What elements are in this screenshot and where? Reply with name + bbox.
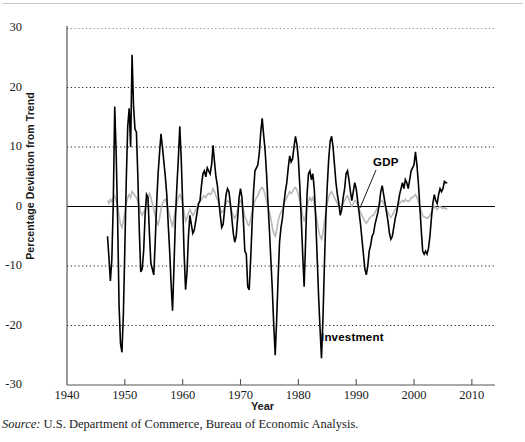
y-tick-0: 0 <box>0 199 22 214</box>
y-tick--30: -30 <box>0 377 22 392</box>
series-label-gdp: GDP <box>373 156 399 168</box>
figure-page: Percentage Deviation from Trend 3020100-… <box>0 0 525 442</box>
y-tick-10: 10 <box>0 139 22 154</box>
y-tick-20: 20 <box>0 80 22 95</box>
y-tick--10: -10 <box>0 258 22 273</box>
y-tick--20: -20 <box>0 318 22 333</box>
x-axis-label: Year <box>0 400 525 412</box>
series-label-investment: Investment <box>321 331 384 343</box>
y-axis-label: Percentage Deviation from Trend <box>24 61 36 291</box>
y-tick-30: 30 <box>0 20 22 35</box>
chart-figure: Percentage Deviation from Trend 3020100-… <box>0 0 525 405</box>
source-caption: Source: U.S. Department of Commerce, Bur… <box>2 417 358 432</box>
source-text: U.S. Department of Commerce, Bureau of E… <box>40 417 358 431</box>
plot-area <box>67 28 495 385</box>
source-prefix: Source: <box>2 417 40 431</box>
